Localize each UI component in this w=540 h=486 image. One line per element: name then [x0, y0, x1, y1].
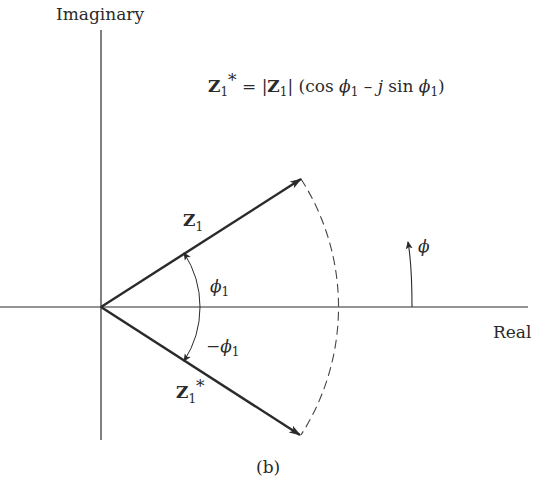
z1-conj-sub: 1: [188, 392, 196, 406]
phi-direction-label: ϕ: [418, 236, 430, 256]
z1-conjugate-label: Z1*: [176, 376, 205, 406]
eq-phi2-sub: 1: [430, 85, 438, 99]
eq-phi1: ϕ: [339, 76, 351, 96]
neg-phi1-prefix: −: [206, 336, 220, 356]
neg-phi1-sub: 1: [232, 345, 240, 359]
eq-minus: –: [358, 76, 377, 96]
figure-caption: (b): [256, 457, 280, 477]
eq-close: ): [438, 76, 445, 96]
phi1-sub: 1: [222, 285, 230, 299]
conjugate-equation: Z1* = |Z1| (cos ϕ1 – j sin ϕ1): [208, 70, 445, 99]
z1-symbol: Z: [183, 210, 195, 230]
eq-lhs-symbol: Z: [208, 76, 220, 96]
phi1-label: ϕ1: [210, 276, 229, 299]
z1-sub: 1: [195, 220, 203, 234]
z1-conj-symbol: Z: [176, 382, 188, 402]
eq-abs-symbol: Z: [267, 76, 279, 96]
eq-phi2: ϕ: [419, 76, 431, 96]
imaginary-axis-label: Imaginary: [56, 4, 145, 24]
phasor-diagram: Imaginary Real Z1* = |Z1| (cos ϕ1 – j si…: [0, 0, 540, 486]
neg-phi1-label: −ϕ1: [206, 336, 239, 359]
eq-part1: (cos: [293, 76, 339, 96]
real-axis-label: Real: [493, 322, 531, 342]
eq-part2: sin: [383, 76, 419, 96]
phi-direction-arrow: [408, 242, 412, 307]
eq-abs-sub: 1: [280, 85, 288, 99]
eq-equals: =: [237, 76, 262, 96]
vector-z1-conjugate: [101, 307, 300, 435]
z1-label: Z1: [183, 210, 203, 234]
angle-arc-neg-phi1: [184, 307, 200, 361]
phi1-symbol: ϕ: [210, 276, 222, 296]
neg-phi1-symbol: ϕ: [220, 336, 232, 356]
eq-lhs-sub: 1: [220, 85, 228, 99]
z1-conj-sup: *: [196, 376, 205, 396]
vector-z1: [101, 179, 301, 307]
eq-phi1-sub: 1: [351, 85, 359, 99]
angle-arc-phi1: [184, 253, 200, 307]
